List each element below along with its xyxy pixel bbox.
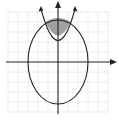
coordinate-plane <box>0 0 119 120</box>
parabola-right-arrow-icon <box>73 6 78 12</box>
x-axis-arrow-icon <box>110 59 117 65</box>
y-axis-arrow-icon <box>55 1 61 8</box>
parabola-left-arrow-icon <box>39 6 44 12</box>
